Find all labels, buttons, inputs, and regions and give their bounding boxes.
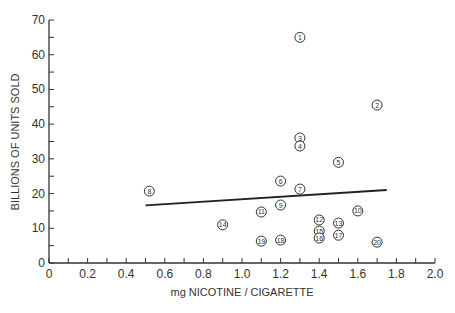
point-label: 11 — [258, 208, 265, 215]
y-tick-label: 0 — [38, 256, 45, 270]
point-label: 3 — [298, 135, 302, 142]
data-point: 14 — [218, 220, 228, 230]
y-tick-label: 40 — [32, 117, 46, 131]
data-point: 2 — [372, 100, 382, 110]
y-tick-label: 60 — [32, 48, 46, 62]
point-label: 8 — [147, 188, 151, 195]
data-point: 18 — [276, 235, 286, 245]
x-tick-label: 1.6 — [349, 267, 366, 281]
regression-line — [146, 190, 387, 205]
data-point: 19 — [256, 236, 266, 246]
data-point: 6 — [276, 176, 286, 186]
data-point: 11 — [256, 207, 266, 217]
point-label: 10 — [354, 207, 362, 214]
data-point: 1 — [295, 32, 305, 42]
x-tick-label: 0 — [46, 267, 53, 281]
scatter-chart: 00.20.40.60.81.01.21.41.61.82.0 01020304… — [0, 0, 455, 313]
data-point: 20 — [372, 237, 382, 247]
x-tick-label: 0.2 — [79, 267, 96, 281]
y-tick-label: 70 — [32, 13, 46, 27]
data-point: 12 — [314, 215, 324, 225]
x-axis-title: mg NICOTINE / CIGARETTE — [170, 286, 313, 298]
data-point: 10 — [353, 206, 363, 216]
point-label: 14 — [219, 221, 227, 228]
data-point: 16 — [314, 233, 324, 243]
y-tick-label: 50 — [32, 82, 46, 96]
point-label: 9 — [279, 202, 283, 209]
y-axis-ticks: 010203040506070 — [32, 13, 54, 270]
point-label: 5 — [337, 159, 341, 166]
axes — [49, 20, 435, 263]
x-tick-label: 1.4 — [311, 267, 328, 281]
data-point: 13 — [334, 218, 344, 228]
y-tick-label: 30 — [32, 152, 46, 166]
x-tick-label: 0.6 — [156, 267, 173, 281]
data-point: 5 — [334, 157, 344, 167]
point-label: 19 — [257, 238, 265, 245]
y-tick-label: 10 — [32, 221, 46, 235]
x-axis-ticks: 00.20.40.60.81.01.21.41.61.82.0 — [46, 258, 444, 281]
y-tick-label: 20 — [32, 187, 46, 201]
data-points: 1234567891011121314151617181920 — [144, 32, 382, 247]
point-label: 18 — [277, 237, 285, 244]
regression-line-path — [146, 190, 387, 205]
point-label: 20 — [373, 239, 381, 246]
data-point: 9 — [276, 200, 286, 210]
y-axis-title: BILLIONS OF UNITS SOLD — [9, 73, 21, 210]
x-tick-label: 1.8 — [388, 267, 405, 281]
point-label: 13 — [335, 220, 343, 227]
point-label: 17 — [335, 232, 343, 239]
point-label: 12 — [315, 216, 323, 223]
data-point: 4 — [295, 141, 305, 151]
x-tick-label: 2.0 — [427, 267, 444, 281]
point-label: 7 — [298, 186, 302, 193]
data-point: 8 — [144, 186, 154, 196]
point-label: 2 — [375, 102, 379, 109]
x-tick-label: 1.0 — [234, 267, 251, 281]
point-label: 1 — [298, 34, 302, 41]
point-label: 6 — [279, 178, 283, 185]
data-point: 17 — [334, 230, 344, 240]
point-label: 4 — [298, 143, 302, 150]
x-tick-label: 0.8 — [195, 267, 212, 281]
x-tick-label: 0.4 — [118, 267, 135, 281]
point-label: 16 — [315, 235, 323, 242]
x-tick-label: 1.2 — [272, 267, 289, 281]
data-point: 7 — [295, 184, 305, 194]
